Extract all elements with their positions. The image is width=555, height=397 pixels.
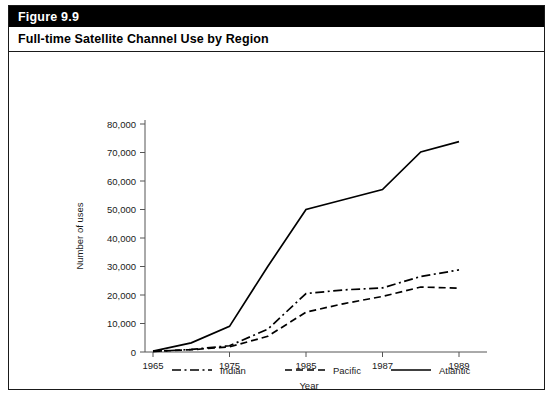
series-line-atlantic bbox=[153, 142, 459, 351]
y-tick-label: 40,000 bbox=[107, 233, 136, 244]
legend-label-atlantic: Atlantic bbox=[439, 365, 470, 376]
chart-legend: IndianPacificAtlantic bbox=[172, 365, 470, 376]
x-axis-title: Year bbox=[299, 380, 318, 389]
y-tick-label: 50,000 bbox=[107, 204, 136, 215]
legend-label-pacific: Pacific bbox=[333, 365, 361, 376]
y-axis: 010,00020,00030,00040,00050,00060,00070,… bbox=[74, 119, 145, 358]
x-tick-label: 1987 bbox=[372, 360, 393, 371]
data-series-group bbox=[153, 142, 459, 352]
legend-item-atlantic: Atlantic bbox=[391, 365, 470, 376]
legend-label-indian: Indian bbox=[220, 365, 246, 376]
figure-container: Figure 9.9 Full-time Satellite Channel U… bbox=[8, 5, 545, 390]
y-axis-ticks bbox=[140, 124, 145, 352]
y-axis-title: Number of uses bbox=[74, 202, 85, 269]
y-tick-label: 70,000 bbox=[107, 147, 136, 158]
y-tick-label: 10,000 bbox=[107, 318, 136, 329]
x-axis-ticks bbox=[153, 352, 459, 357]
figure-title: Full-time Satellite Channel Use by Regio… bbox=[18, 32, 269, 46]
figure-number-label: Figure 9.9 bbox=[18, 10, 79, 24]
y-tick-label: 0 bbox=[131, 347, 136, 358]
series-line-pacific bbox=[153, 287, 459, 351]
chart-plot-area: 010,00020,00030,00040,00050,00060,00070,… bbox=[9, 52, 544, 389]
line-chart: 010,00020,00030,00040,00050,00060,00070,… bbox=[9, 52, 544, 389]
x-tick-label: 1965 bbox=[142, 360, 163, 371]
figure-header-bar: Figure 9.9 bbox=[9, 6, 544, 27]
legend-item-indian: Indian bbox=[172, 365, 246, 376]
y-tick-label: 20,000 bbox=[107, 290, 136, 301]
y-tick-label: 80,000 bbox=[107, 119, 136, 130]
y-tick-label: 60,000 bbox=[107, 176, 136, 187]
y-axis-tick-labels: 010,00020,00030,00040,00050,00060,00070,… bbox=[107, 119, 136, 358]
figure-title-bar: Full-time Satellite Channel Use by Regio… bbox=[9, 27, 544, 52]
y-tick-label: 30,000 bbox=[107, 261, 136, 272]
